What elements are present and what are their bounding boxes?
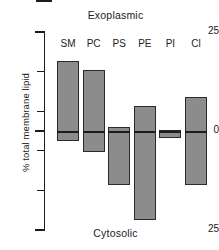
bar-zero-divider	[83, 131, 105, 133]
y-axis-tick	[37, 111, 45, 112]
bar-category-label: PS	[108, 38, 130, 49]
plot-area: 25025SMPCPSPEPICl	[0, 0, 219, 250]
bar-rect[interactable]	[134, 106, 156, 220]
bar-rect[interactable]	[108, 127, 130, 185]
bar-zero-divider	[57, 131, 79, 133]
zero-baseline	[36, 0, 52, 2]
bar-group[interactable]: PE	[134, 0, 156, 250]
bar-zero-divider	[108, 131, 130, 133]
bar-group[interactable]: PS	[108, 0, 130, 250]
membrane-lipid-distribution-chart: Exoplasmic % total membrane lipid 25025S…	[0, 0, 219, 250]
bar-category-label: Cl	[185, 38, 207, 49]
bar-rect[interactable]	[83, 70, 105, 152]
bar-zero-divider	[134, 131, 156, 133]
bar-category-label: PI	[159, 38, 181, 49]
bar-rect[interactable]	[159, 130, 181, 138]
bar-group[interactable]: SM	[57, 0, 79, 250]
bar-zero-divider	[185, 131, 207, 133]
bar-category-label: SM	[57, 38, 79, 49]
bar-category-label: PC	[83, 38, 105, 49]
bar-rect[interactable]	[57, 61, 79, 141]
bar-category-label: PE	[134, 38, 156, 49]
bar-rect[interactable]	[185, 97, 207, 185]
bar-group[interactable]: Cl	[185, 0, 207, 250]
y-axis-tick	[35, 31, 45, 32]
cytosolic-caption: Cytosolic	[6, 227, 219, 239]
bar-zero-divider	[159, 131, 181, 133]
y-axis-tick	[35, 130, 45, 131]
y-axis-tick	[37, 190, 45, 191]
bar-group[interactable]: PC	[83, 0, 105, 250]
bar-group[interactable]: PI	[159, 0, 181, 250]
y-axis-tick	[37, 150, 45, 151]
y-axis-tick	[37, 71, 45, 72]
